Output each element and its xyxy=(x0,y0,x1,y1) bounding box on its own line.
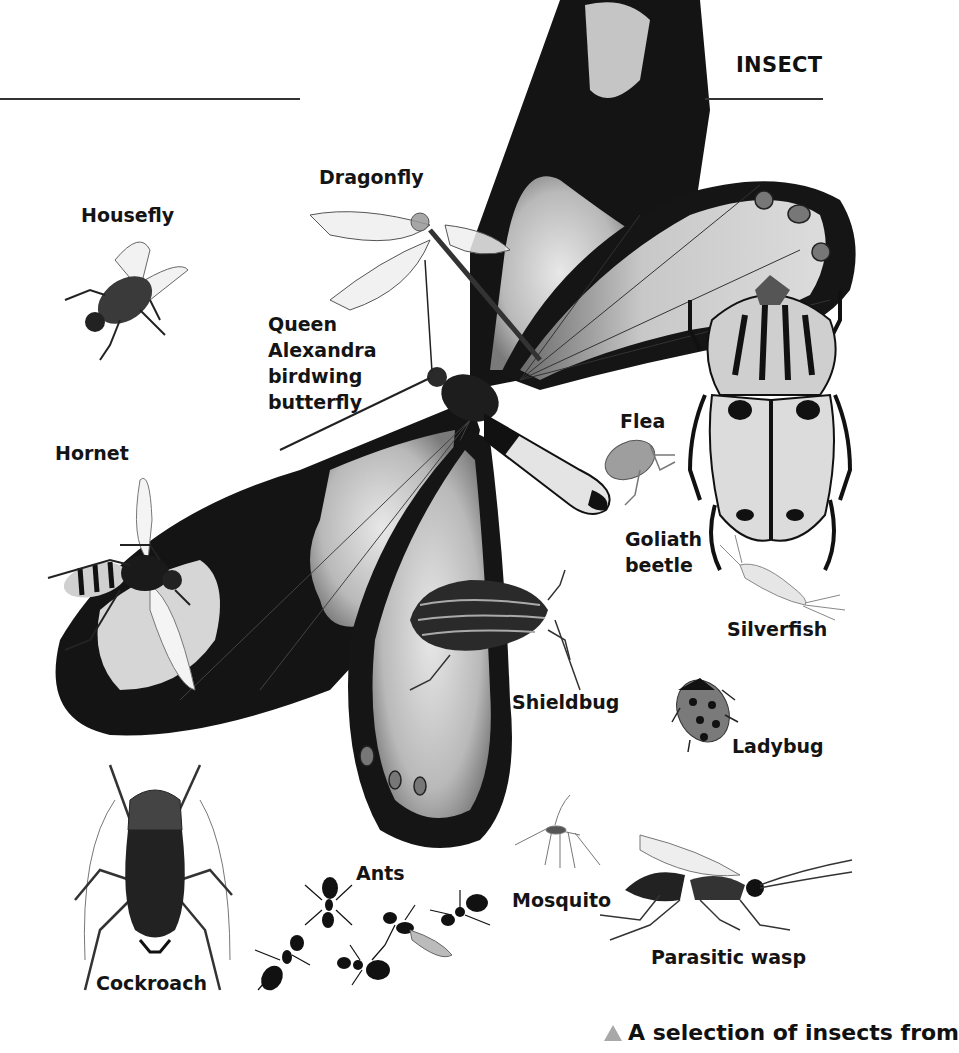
header-rule-left xyxy=(0,98,300,100)
label-birdwing-line-1: Queen xyxy=(268,311,377,337)
caption-text: A selection of insects from xyxy=(628,1020,959,1045)
label-birdwing: Queen Alexandra birdwing butterfly xyxy=(268,311,377,415)
label-hornet: Hornet xyxy=(55,440,129,466)
ladybug-drawing xyxy=(667,671,739,752)
header-rule-right xyxy=(705,98,823,100)
label-housefly: Housefly xyxy=(81,202,174,228)
label-parasitic-wasp: Parasitic wasp xyxy=(651,944,806,970)
label-cockroach: Cockroach xyxy=(96,970,207,996)
label-birdwing-line-4: butterfly xyxy=(268,389,377,415)
label-ants: Ants xyxy=(356,860,405,886)
label-goliath-beetle: Goliath beetle xyxy=(625,526,702,578)
ants-drawing xyxy=(255,877,490,994)
mosquito-drawing xyxy=(515,795,600,868)
label-dragonfly: Dragonfly xyxy=(319,164,424,190)
label-shieldbug: Shieldbug xyxy=(512,689,619,715)
figure-caption: A selection of insects from xyxy=(604,1020,959,1045)
cockroach-drawing xyxy=(75,765,232,990)
label-flea: Flea xyxy=(620,408,665,434)
silverfish-drawing xyxy=(720,535,845,620)
label-ladybug: Ladybug xyxy=(732,733,824,759)
label-goliath-line-2: beetle xyxy=(625,552,702,578)
parasitic-wasp-drawing xyxy=(600,835,852,940)
label-mosquito: Mosquito xyxy=(512,887,611,913)
goliath-beetle-drawing xyxy=(690,275,850,570)
label-birdwing-line-3: birdwing xyxy=(268,363,377,389)
label-birdwing-line-2: Alexandra xyxy=(268,337,377,363)
triangle-up-icon xyxy=(604,1025,622,1041)
housefly-drawing xyxy=(65,242,188,360)
label-silverfish: Silverfish xyxy=(727,616,827,642)
label-goliath-line-1: Goliath xyxy=(625,526,702,552)
section-title: INSECT xyxy=(736,53,822,77)
flea-drawing xyxy=(599,433,675,505)
